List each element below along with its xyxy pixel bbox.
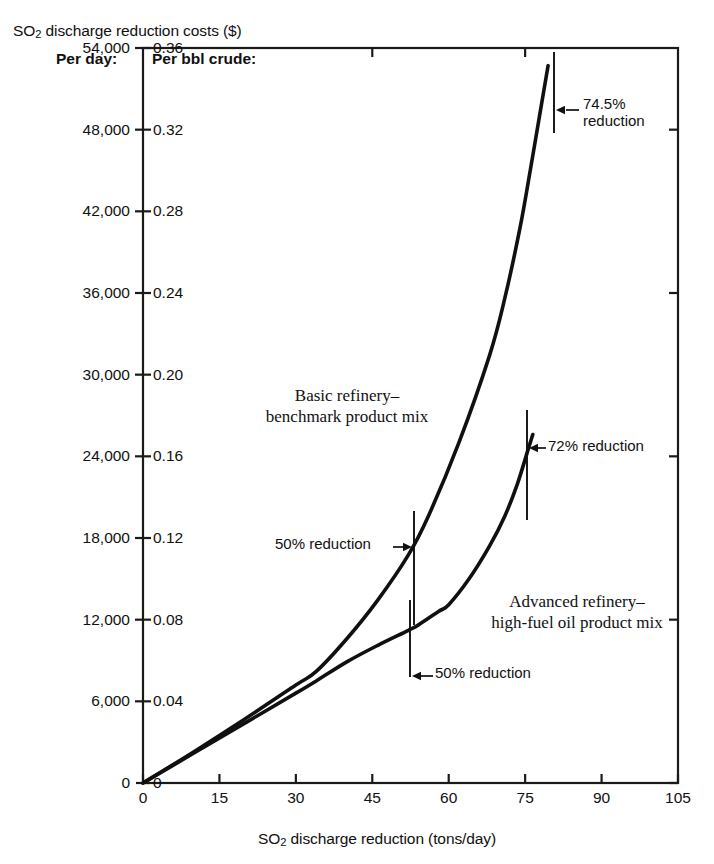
x-axis-tick-marks (143, 774, 678, 783)
x-tick-label-5: 75 (517, 789, 534, 807)
y-tick-label-right-3: 0.12 (153, 529, 183, 547)
x-tick-label-7: 105 (665, 789, 691, 807)
y-axis-title-post: discharge reduction costs ($) (41, 22, 241, 39)
ann-72-label: 72% reduction (548, 437, 644, 454)
y-tick-label-left-5: 30,000 (22, 366, 130, 384)
x-tick-label-4: 60 (440, 789, 457, 807)
y-tick-label-left-3: 18,000 (22, 529, 130, 547)
y-tick-label-left-4: 24,000 (22, 447, 130, 465)
x-axis-title: SO2 discharge reduction (tons/day) (258, 830, 496, 849)
y-tick-label-left-7: 42,000 (22, 202, 130, 220)
series-label-1-line2: high-fuel oil product mix (452, 613, 702, 634)
y-tick-label-right-8: 0.32 (153, 121, 183, 139)
y-tick-label-right-0: 0 (153, 774, 162, 792)
series-label-0-line1: Basic refinery– (222, 386, 472, 407)
x-tick-label-6: 90 (593, 789, 610, 807)
x-tick-label-3: 45 (364, 789, 381, 807)
ann-50-basic-label-line1: 50% reduction (275, 535, 371, 552)
y-tick-label-left-6: 36,000 (22, 284, 130, 302)
y-tick-label-left-2: 12,000 (22, 611, 130, 629)
y-tick-label-right-5: 0.20 (153, 366, 183, 384)
y-tick-label-right-1: 0.04 (153, 692, 183, 710)
ann-50-advanced-label-line1: 50% reduction (435, 664, 531, 681)
x-axis-title-post: discharge reduction (tons/day) (286, 830, 496, 847)
y-axis-title-pre: SO (13, 22, 35, 39)
y-tick-label-left-9: 54,000 (22, 39, 130, 57)
y-tick-label-right-4: 0.16 (153, 447, 183, 465)
chart-figure: SO2 discharge reduction costs ($) Per da… (0, 0, 714, 864)
ann-74-5-label-line1: 74.5% (583, 95, 645, 112)
y-tick-label-left-8: 48,000 (22, 121, 130, 139)
ann-74-5-label: 74.5%reduction (583, 95, 645, 130)
ann-50-advanced-label: 50% reduction (435, 664, 531, 681)
series-label-1-line1: Advanced refinery– (452, 592, 702, 613)
ann-74-5-label-line2: reduction (583, 112, 645, 129)
y-tick-label-left-1: 6,000 (22, 692, 130, 710)
x-axis-title-pre: SO (258, 830, 280, 847)
series-label-0: Basic refinery–benchmark product mix (222, 386, 472, 427)
y-tick-label-right-2: 0.08 (153, 611, 183, 629)
x-tick-label-1: 15 (211, 789, 228, 807)
y-tick-label-right-7: 0.28 (153, 202, 183, 220)
y-tick-label-right-9: 0.36 (153, 39, 183, 57)
x-tick-label-0: 0 (139, 789, 148, 807)
y-tick-label-left-0: 0 (22, 774, 130, 792)
ann-50-basic-label: 50% reduction (275, 535, 371, 552)
ann-50-advanced-arrowhead (412, 672, 421, 680)
series-label-1: Advanced refinery–high-fuel oil product … (452, 592, 702, 633)
y-tick-label-right-6: 0.24 (153, 284, 183, 302)
series-label-0-line2: benchmark product mix (222, 407, 472, 428)
ann-74-5-arrowhead (556, 106, 565, 114)
ann-72-label-line1: 72% reduction (548, 437, 644, 454)
x-tick-label-2: 30 (287, 789, 304, 807)
